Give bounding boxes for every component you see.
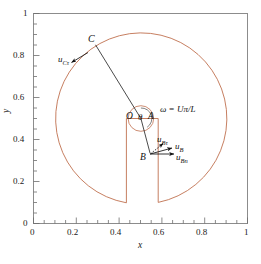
x-tick-label-3: 0.6: [153, 227, 164, 237]
x-tick-label-4: 0.8: [196, 227, 207, 237]
theta-label: θ: [138, 112, 142, 122]
y-axis-title: y: [1, 109, 11, 113]
vector-u-C-tau: [72, 53, 89, 63]
radius-line: [96, 45, 151, 154]
segment-OC: [96, 45, 141, 119]
x-axis-ticks: [34, 218, 248, 224]
label-u-B-n-sub: Bn: [181, 157, 188, 164]
point-label-A: A: [148, 111, 154, 121]
y-tick-label-5: 1: [23, 8, 28, 18]
y-tick-label-2: 0.4: [13, 134, 24, 144]
y-axis-ticks: [34, 14, 40, 224]
label-u-C-tau: uCτ: [58, 54, 69, 66]
x-tick-label-2: 0.4: [110, 227, 121, 237]
x-tick-label-5: 1: [244, 227, 249, 237]
diagram-svg: [0, 0, 261, 264]
point-label-O: O: [126, 111, 133, 121]
x-tick-label-1: 0.2: [67, 227, 78, 237]
label-u-B-tau-sub: Bτ: [162, 139, 168, 146]
y-tick-label-3: 0.6: [13, 92, 24, 102]
omega-equation-label: ω = Uπ/L: [160, 104, 195, 114]
x-tick-label-0: 0: [30, 227, 35, 237]
label-u-B-n: uBn: [176, 152, 188, 164]
point-label-B: B: [140, 152, 146, 162]
point-label-C: C: [88, 33, 95, 44]
figure-canvas: 0 0.2 0.4 0.6 0.8 1 0 0.2 0.4 0.6 0.8 1 …: [0, 0, 261, 264]
label-u-C-tau-sub: Cτ: [63, 59, 70, 66]
y-tick-label-1: 0.2: [13, 176, 24, 186]
y-tick-label-0: 0: [23, 218, 28, 228]
segment-OB: [141, 119, 150, 154]
label-u-B-tau: uBτ: [157, 134, 168, 146]
y-tick-label-4: 0.8: [13, 50, 24, 60]
x-axis-title: x: [138, 240, 142, 250]
